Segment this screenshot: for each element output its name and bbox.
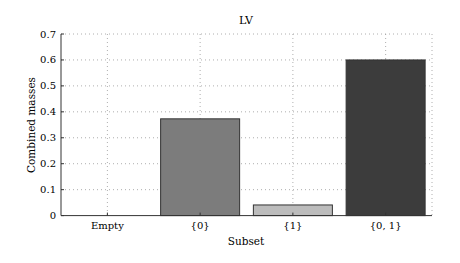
y-tick-label: 0.2 [40,158,56,169]
x-tick-label: {0, 1} [370,220,402,231]
y-axis-label: Combined masses [25,77,37,173]
bar-chart: LV Subset Combined masses 00.10.20.30.40… [0,0,460,263]
y-tick-label: 0.3 [40,132,56,143]
x-tick-labels: Empty{0}{1}{0, 1} [91,220,402,231]
y-tick-label: 0.4 [40,106,56,117]
bars [161,60,426,216]
y-tick-labels: 00.10.20.30.40.50.60.7 [40,29,56,222]
y-tick-label: 0.1 [40,184,56,195]
y-tick-label: 0.5 [40,80,56,91]
x-tick-label: {1} [283,220,302,231]
chart-title: LV [239,14,254,27]
y-tick-label: 0.6 [40,54,56,65]
x-axis-label: Subset [228,235,265,247]
y-tick-label: 0 [50,210,56,221]
x-tick-label: Empty [91,220,124,231]
bar-1 [161,119,240,216]
y-tick-label: 0.7 [40,29,56,40]
bar-3 [346,60,425,216]
x-tick-label: {0} [191,220,210,231]
